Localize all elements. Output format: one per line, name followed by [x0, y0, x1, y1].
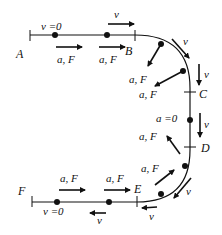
label-a-zero: a =0 [156, 112, 178, 124]
label-v-zero-top: v =0 [41, 20, 62, 32]
label-aF-lower1: a, F [139, 130, 157, 142]
label-aF-bottom1: a, F [60, 172, 78, 184]
label-aF-lower2: a, F [141, 162, 159, 174]
point-label-f: F [17, 184, 26, 198]
label-v-lower1: v [186, 185, 191, 197]
label-v-curve2: v [204, 68, 209, 80]
label-v-top: v [114, 8, 119, 20]
label-v-curve1: v [183, 35, 188, 47]
point-label-d: D [200, 141, 210, 155]
label-v-lower2: v [149, 210, 154, 222]
label-v-zero-bottom: v =0 [43, 205, 64, 217]
label-v-d: v [204, 118, 209, 130]
label-aF-bottom2: a, F [106, 172, 124, 184]
label-aF-curve1: a, F [129, 73, 147, 85]
point-label-a: A [15, 47, 24, 61]
label-v-bottom: v [97, 214, 102, 226]
point-label-b: B [125, 44, 133, 58]
point-label-e: E [133, 182, 142, 196]
point-label-c: C [199, 87, 208, 101]
label-aF-top1: a, F [57, 53, 75, 65]
label-aF-curve2: a, F [139, 88, 157, 100]
label-aF-top2: a, F [99, 53, 117, 65]
motion-path-diagram: A B C D E F v =0 v v v v v v v v =0 a =0… [0, 0, 222, 235]
